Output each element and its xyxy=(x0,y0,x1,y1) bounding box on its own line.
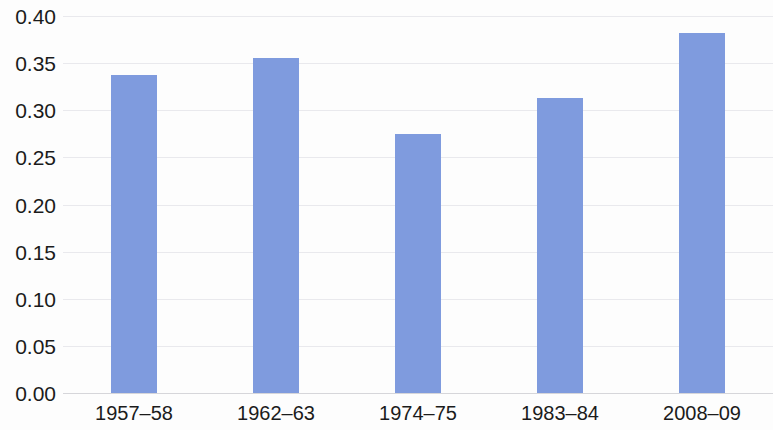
gridline xyxy=(63,16,773,17)
plot-area xyxy=(63,16,773,393)
x-axis-tick-label: 1974–75 xyxy=(379,401,457,425)
bar xyxy=(537,98,583,393)
y-axis-tick-label: 0.30 xyxy=(0,100,56,121)
bar xyxy=(111,75,157,393)
axis-baseline xyxy=(63,393,773,394)
y-axis-tick-label: 0.20 xyxy=(0,194,56,215)
y-axis-tick-label: 0.15 xyxy=(0,241,56,262)
x-axis-tick-label: 2008–09 xyxy=(663,401,741,425)
bar xyxy=(395,134,441,393)
y-axis-tick-label: 0.25 xyxy=(0,147,56,168)
gridline xyxy=(63,110,773,111)
y-axis: 0.000.050.100.150.200.250.300.350.40 xyxy=(0,0,56,430)
bar-chart: 0.000.050.100.150.200.250.300.350.40 195… xyxy=(0,0,773,430)
gridline xyxy=(63,63,773,64)
bar xyxy=(253,58,299,393)
y-axis-tick-label: 0.05 xyxy=(0,335,56,356)
x-axis: 1957–581962–631974–751983–842008–09 xyxy=(0,399,773,430)
x-axis-tick-label: 1957–58 xyxy=(95,401,173,425)
y-axis-tick-label: 0.10 xyxy=(0,288,56,309)
y-axis-tick-label: 0.35 xyxy=(0,53,56,74)
bar xyxy=(679,33,725,393)
x-axis-tick-label: 1983–84 xyxy=(521,401,599,425)
x-axis-tick-label: 1962–63 xyxy=(237,401,315,425)
y-axis-tick-label: 0.40 xyxy=(0,6,56,27)
